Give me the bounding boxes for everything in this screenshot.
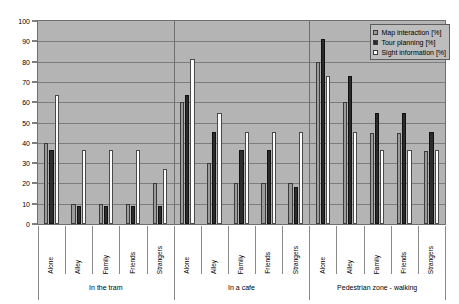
- bar-cluster: [201, 21, 228, 224]
- bar: [239, 150, 243, 224]
- x-axis-category-text: Strangers: [293, 245, 300, 274]
- bar: [126, 204, 130, 224]
- group-divider: [174, 226, 175, 300]
- legend-item: Tour planning [%]: [373, 37, 446, 47]
- bar-cluster: [38, 21, 65, 224]
- x-axis-category-text: Family: [238, 254, 245, 274]
- x-axis-category-text: Alley: [211, 259, 218, 274]
- x-axis-category-label: Strangers: [147, 226, 174, 274]
- bar: [316, 62, 320, 224]
- bar-cluster: [119, 21, 146, 224]
- bar: [180, 102, 184, 224]
- legend-swatch-icon: [373, 30, 378, 35]
- x-axis-category-text: Family: [374, 254, 381, 274]
- bar: [234, 183, 238, 224]
- group-divider: [445, 226, 446, 300]
- bar: [158, 206, 162, 224]
- category-separator: [282, 226, 283, 274]
- x-axis-category-label: Friends: [119, 226, 146, 274]
- x-axis-category-label: Friends: [255, 226, 282, 274]
- bar-chart: 0102030405060708090100 AloneAlleyFamilyF…: [0, 0, 459, 304]
- bar-cluster: [147, 21, 174, 224]
- bar-cluster: [255, 21, 282, 224]
- x-axis-category-label: Friends: [391, 226, 418, 274]
- x-axis-category-text: Alley: [347, 259, 354, 274]
- x-axis-category-label: Strangers: [418, 226, 445, 274]
- bar: [397, 133, 401, 224]
- bar: [321, 39, 325, 224]
- x-axis-group-label: In a cafe: [174, 274, 310, 300]
- x-axis-category-label: Alley: [201, 226, 228, 274]
- bar: [99, 204, 103, 224]
- y-axis-tick-label: 100: [18, 18, 30, 25]
- bar: [82, 150, 86, 224]
- y-axis-tick-label: 40: [22, 139, 30, 146]
- x-axis-category-text: Family: [103, 254, 110, 274]
- category-separator: [201, 226, 202, 274]
- bar: [348, 76, 352, 224]
- x-axis-category-text: Alley: [75, 259, 82, 274]
- y-axis-tick-label: 0: [26, 221, 30, 228]
- y-axis-tick-label: 30: [22, 160, 30, 167]
- bar-cluster: [228, 21, 255, 224]
- bar-cluster: [309, 21, 336, 224]
- x-axis-category-text: Alone: [184, 256, 191, 274]
- legend-label: Tour planning [%]: [381, 39, 435, 46]
- bar-cluster: [65, 21, 92, 224]
- y-axis-tick-label: 50: [22, 119, 30, 126]
- x-axis-category-label: Alley: [336, 226, 363, 274]
- category-separator: [391, 226, 392, 274]
- x-axis-category-label: Alone: [38, 226, 65, 274]
- category-separator: [119, 226, 120, 274]
- category-separator: [147, 226, 148, 274]
- bar: [429, 132, 433, 224]
- bar: [375, 113, 379, 224]
- category-separator: [255, 226, 256, 274]
- bar: [245, 132, 249, 224]
- y-axis-tick-label: 80: [22, 58, 30, 65]
- bar: [294, 187, 298, 224]
- bar: [185, 95, 189, 224]
- legend: Map interaction [%]Tour planning [%]Sigh…: [370, 24, 450, 60]
- x-axis-group-label: In the tram: [38, 274, 174, 300]
- bar: [77, 206, 81, 224]
- bar: [136, 150, 140, 224]
- category-separator: [92, 226, 93, 274]
- bar: [343, 102, 347, 224]
- bar: [109, 150, 113, 224]
- legend-label: Sight information [%]: [381, 49, 446, 56]
- bar-cluster: [92, 21, 119, 224]
- x-axis-group-text: In the tram: [89, 284, 122, 291]
- y-axis-tick-label: 90: [22, 38, 30, 45]
- bar: [131, 206, 135, 224]
- y-axis-tick-label: 60: [22, 99, 30, 106]
- legend-label: Map interaction [%]: [381, 29, 441, 36]
- y-axis-tick-label: 20: [22, 180, 30, 187]
- bar: [212, 132, 216, 224]
- y-axis-tick-label: 70: [22, 78, 30, 85]
- bar-cluster: [174, 21, 201, 224]
- x-axis-categories: AloneAlleyFamilyFriendsStrangersAloneAll…: [38, 226, 445, 274]
- bar: [299, 132, 303, 224]
- x-axis-category-label: Family: [228, 226, 255, 274]
- group-divider: [38, 226, 39, 300]
- x-axis-group-label: Pedestrian zone - walking: [309, 274, 445, 300]
- bar: [71, 204, 75, 224]
- category-separator: [65, 226, 66, 274]
- x-axis-category-label: Family: [364, 226, 391, 274]
- bar: [267, 150, 271, 224]
- x-axis-category-text: Friends: [130, 251, 137, 274]
- x-axis-category-label: Strangers: [282, 226, 309, 274]
- bar: [424, 151, 428, 224]
- x-axis-category-text: Strangers: [428, 245, 435, 274]
- bar: [55, 95, 59, 224]
- group-divider: [309, 226, 310, 300]
- bar: [370, 133, 374, 224]
- bar: [288, 183, 292, 224]
- category-separator: [364, 226, 365, 274]
- bar-cluster: [282, 21, 309, 224]
- bar: [163, 169, 167, 224]
- x-axis-group-text: Pedestrian zone - walking: [337, 284, 417, 291]
- bar: [217, 113, 221, 224]
- bar: [353, 132, 357, 224]
